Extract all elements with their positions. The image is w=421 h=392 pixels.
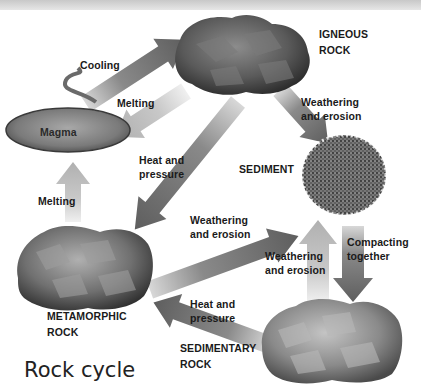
- weathering-igneous-line2: and erosion: [301, 109, 362, 123]
- sedimentary-rock-image: [262, 299, 402, 383]
- label-melting-metamorphic: Melting: [38, 194, 75, 208]
- sedimentary-label-line1: SEDIMENTARY: [180, 340, 256, 356]
- label-melting-igneous: Melting: [117, 96, 154, 110]
- sedimentary-rock-label: SEDIMENTARY ROCK: [180, 340, 256, 372]
- label-compacting: Compacting together: [347, 235, 409, 263]
- weathering-metamorphic-line2: and erosion: [190, 227, 251, 241]
- label-cooling: Cooling: [80, 58, 120, 72]
- weathering-sedimentary-line1: Weathering: [265, 249, 326, 263]
- compacting-line2: together: [347, 249, 409, 263]
- sedimentary-label-line2: ROCK: [180, 356, 256, 372]
- label-heat-pressure-igneous: Heat and pressure: [139, 153, 184, 181]
- label-weathering-sedimentary: Weathering and erosion: [265, 249, 326, 277]
- weathering-igneous-line1: Weathering: [301, 95, 362, 109]
- weathering-metamorphic-line1: Weathering: [190, 213, 251, 227]
- metamorphic-rock-image: [17, 226, 153, 310]
- igneous-label-line2: ROCK: [319, 42, 368, 58]
- heat-pressure-igneous-line1: Heat and: [139, 153, 184, 167]
- heat-pressure-igneous-line2: pressure: [139, 167, 184, 181]
- sediment-label: SEDIMENT: [239, 162, 294, 176]
- metamorphic-label-line1: METAMORPHIC: [47, 308, 127, 324]
- diagram-title: Rock cycle: [24, 358, 135, 382]
- igneous-rock-image: [175, 15, 310, 95]
- heat-pressure-sedimentary-line2: pressure: [190, 311, 235, 325]
- heat-pressure-sedimentary-line1: Heat and: [190, 297, 235, 311]
- metamorphic-rock-label: METAMORPHIC ROCK: [47, 308, 127, 340]
- igneous-rock-label: IGNEOUS ROCK: [319, 26, 368, 58]
- weathering-sedimentary-line2: and erosion: [265, 263, 326, 277]
- label-weathering-metamorphic: Weathering and erosion: [190, 213, 251, 241]
- label-weathering-igneous: Weathering and erosion: [301, 95, 362, 123]
- metamorphic-label-line2: ROCK: [47, 324, 127, 340]
- magma-label: Magma: [40, 125, 77, 139]
- sediment-image: [302, 135, 386, 215]
- arrow-melting-metamorphic: [56, 162, 90, 222]
- compacting-line1: Compacting: [347, 235, 409, 249]
- igneous-label-line1: IGNEOUS: [319, 26, 368, 42]
- label-heat-pressure-sedimentary: Heat and pressure: [190, 297, 235, 325]
